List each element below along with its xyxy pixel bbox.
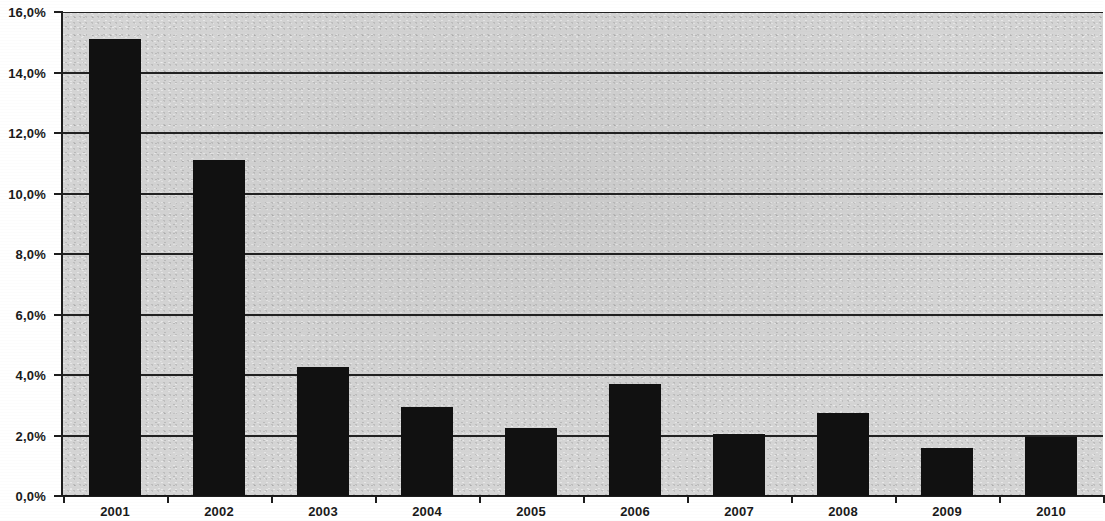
y-tick-label: 6,0%: [16, 307, 46, 322]
x-tick-label: 2003: [308, 504, 338, 519]
x-tick-mark: [999, 495, 1001, 503]
x-tick-mark: [271, 495, 273, 503]
x-tick-mark: [63, 495, 65, 503]
y-tick-mark: [54, 72, 63, 74]
x-tick-mark: [375, 495, 377, 503]
gridline: [63, 72, 1103, 74]
y-tick-label: 16,0%: [8, 5, 46, 20]
x-tick-label: 2008: [828, 504, 858, 519]
bar: [817, 413, 869, 496]
bar: [297, 367, 349, 496]
bar: [89, 39, 141, 496]
y-tick-mark: [54, 253, 63, 255]
y-tick-label: 12,0%: [8, 126, 46, 141]
y-axis: 0,0%2,0%4,0%6,0%8,0%10,0%12,0%14,0%16,0%: [0, 0, 58, 521]
bar: [609, 384, 661, 496]
y-tick-mark: [54, 132, 63, 134]
x-tick-mark: [167, 495, 169, 503]
x-tick-mark: [479, 495, 481, 503]
gridline: [63, 132, 1103, 134]
y-tick-label: 8,0%: [16, 247, 46, 262]
x-tick-label: 2006: [620, 504, 650, 519]
y-tick-label: 4,0%: [16, 368, 46, 383]
y-tick-label: 14,0%: [8, 65, 46, 80]
bar: [921, 448, 973, 496]
x-tick-label: 2002: [204, 504, 234, 519]
bar: [505, 428, 557, 496]
bar: [713, 434, 765, 496]
x-tick-mark: [791, 495, 793, 503]
y-tick-label: 10,0%: [8, 186, 46, 201]
x-tick-label: 2009: [932, 504, 962, 519]
plot-area: [63, 12, 1103, 496]
bar: [401, 407, 453, 496]
x-tick-mark: [895, 495, 897, 503]
y-tick-label: 2,0%: [16, 428, 46, 443]
y-tick-mark: [54, 193, 63, 195]
x-tick-label: 2007: [724, 504, 754, 519]
x-tick-label: 2010: [1036, 504, 1066, 519]
y-tick-mark: [54, 435, 63, 437]
x-tick-mark: [687, 495, 689, 503]
x-tick-mark: [583, 495, 585, 503]
y-tick-label: 0,0%: [16, 489, 46, 504]
bar: [1025, 437, 1077, 496]
x-tick-label: 2001: [100, 504, 130, 519]
x-tick-label: 2004: [412, 504, 442, 519]
bar: [193, 160, 245, 496]
gridline: [63, 12, 1103, 13]
y-tick-mark: [54, 11, 63, 13]
y-tick-mark: [54, 314, 63, 316]
x-tick-label: 2005: [516, 504, 546, 519]
y-tick-mark: [54, 374, 63, 376]
